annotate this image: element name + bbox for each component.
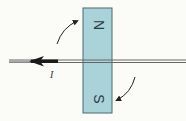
rotation-arrow-bottom-icon — [117, 77, 135, 100]
current-label: I — [49, 69, 54, 80]
magnet-wire-diagram: N S I — [0, 0, 186, 121]
north-pole-label: N — [91, 20, 107, 30]
south-pole-label: S — [91, 94, 107, 103]
rotation-arrow-top-icon — [57, 21, 77, 44]
